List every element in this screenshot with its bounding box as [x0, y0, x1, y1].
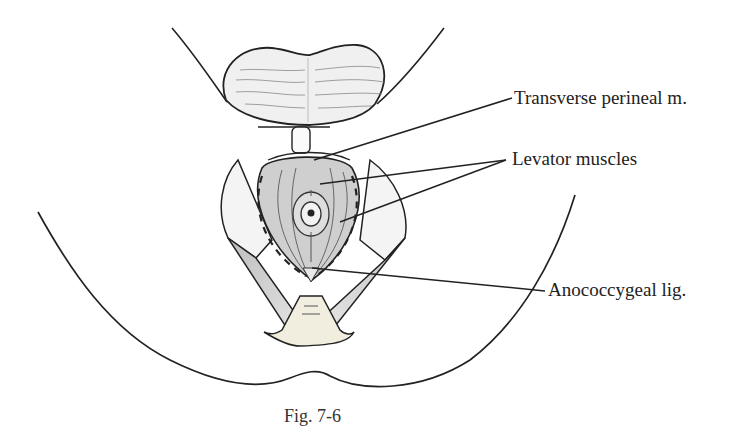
- leader-anococcygeal: [312, 268, 545, 291]
- figure-caption: Fig. 7-6: [284, 406, 341, 427]
- levator-muscle-group: [258, 153, 359, 283]
- label-transverse-perineal: Transverse perineal m.: [514, 87, 687, 109]
- label-anococcygeal-ligament: Anococcygeal lig.: [548, 279, 686, 301]
- bulbous-structure: [223, 45, 384, 125]
- label-levator-muscles: Levator muscles: [512, 148, 637, 170]
- leader-levator-2: [340, 160, 506, 222]
- urethra-stalk: [258, 127, 330, 153]
- anatomical-illustration: [0, 0, 740, 440]
